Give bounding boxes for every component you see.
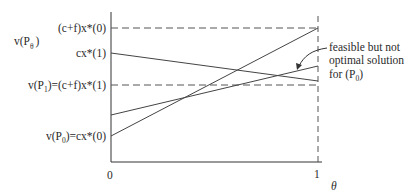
annotation-line-2: optimal solution [329, 54, 404, 67]
label-top-value: (c+f)x*(0) [58, 22, 106, 35]
line-cx1-decreasing [111, 53, 318, 81]
y-axis-label: v(Pθ) [14, 35, 40, 51]
x-tick-0: 0 [107, 169, 113, 181]
annotation-arrow [299, 48, 327, 66]
label-cx1: cx*(1) [76, 47, 106, 60]
annotation-line-3: for (P0) [329, 68, 363, 83]
line-vp0-to-top [111, 28, 318, 136]
x-tick-1: 1 [314, 168, 320, 180]
label-vp1: v(P1)=(c+f)x*(1) [28, 79, 106, 94]
arrowhead-icon [296, 63, 302, 70]
label-vp0: v(P0)=cx*(0) [46, 130, 106, 145]
parametric-value-diagram: v(Pθ) (c+f)x*(0) cx*(1) v(P1)=(c+f)x*(1)… [0, 0, 411, 196]
x-axis-label: θ [331, 180, 337, 192]
annotation-line-1: feasible but not [329, 41, 401, 53]
line-feasible-not-optimal [111, 66, 318, 115]
